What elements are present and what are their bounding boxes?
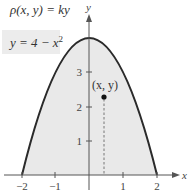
x-tick-label: 1 xyxy=(120,180,126,192)
sample-point xyxy=(101,94,106,99)
x-axis-arrow-icon xyxy=(172,172,180,178)
y-axis-label: y xyxy=(85,1,91,13)
curve-equation-exponent: 2 xyxy=(59,34,64,44)
y-tick-label: 2 xyxy=(77,101,83,113)
curve-equation-text: y = 4 − x xyxy=(10,35,59,50)
x-tick-label: −2 xyxy=(16,180,28,192)
y-tick-label: 3 xyxy=(77,66,83,78)
x-tick-label: 2 xyxy=(154,180,160,192)
x-axis-label: x xyxy=(181,169,187,181)
density-function-label: ρ(x, y) = ky xyxy=(10,2,70,18)
y-tick-label: 1 xyxy=(77,135,83,147)
point-label: (x, y) xyxy=(92,78,118,92)
y-axis-arrow-icon xyxy=(86,14,92,22)
x-tick-label: −1 xyxy=(49,180,61,192)
curve-equation-label: y = 4 − x2 xyxy=(10,34,63,51)
